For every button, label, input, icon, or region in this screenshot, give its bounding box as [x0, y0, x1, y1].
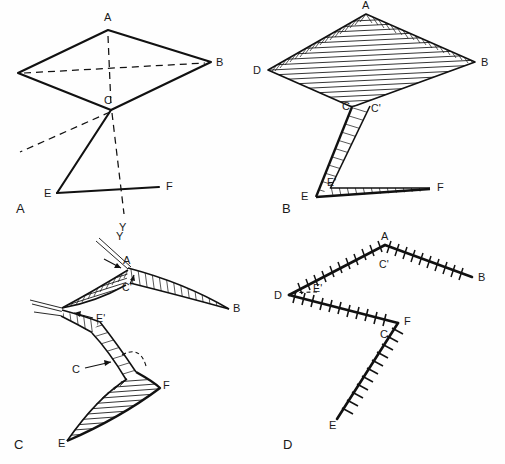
fold-trace-F-E [337, 323, 403, 419]
fold-trace-A-B [385, 241, 472, 280]
vertex-label-F: F [404, 315, 411, 327]
vertex-label-E: E [329, 419, 337, 431]
figure-root: A B C E F Y A [0, 0, 505, 464]
vertex-label-C-prime: C' [379, 258, 389, 270]
vertex-label-B: B [478, 271, 486, 283]
panel-label-d: D [283, 437, 292, 452]
panel-d: A C' B D E' F C E D [0, 0, 505, 464]
vertex-label-A: A [381, 230, 389, 242]
vertex-label-C: C [380, 328, 388, 340]
panel-d-labels: A C' B D E' F C E D [274, 230, 486, 452]
vertex-label-E-prime: E' [313, 282, 322, 294]
fold-trace-A-D [289, 241, 385, 295]
fold-trace-D-F [289, 291, 398, 326]
vertex-label-D: D [274, 289, 282, 301]
